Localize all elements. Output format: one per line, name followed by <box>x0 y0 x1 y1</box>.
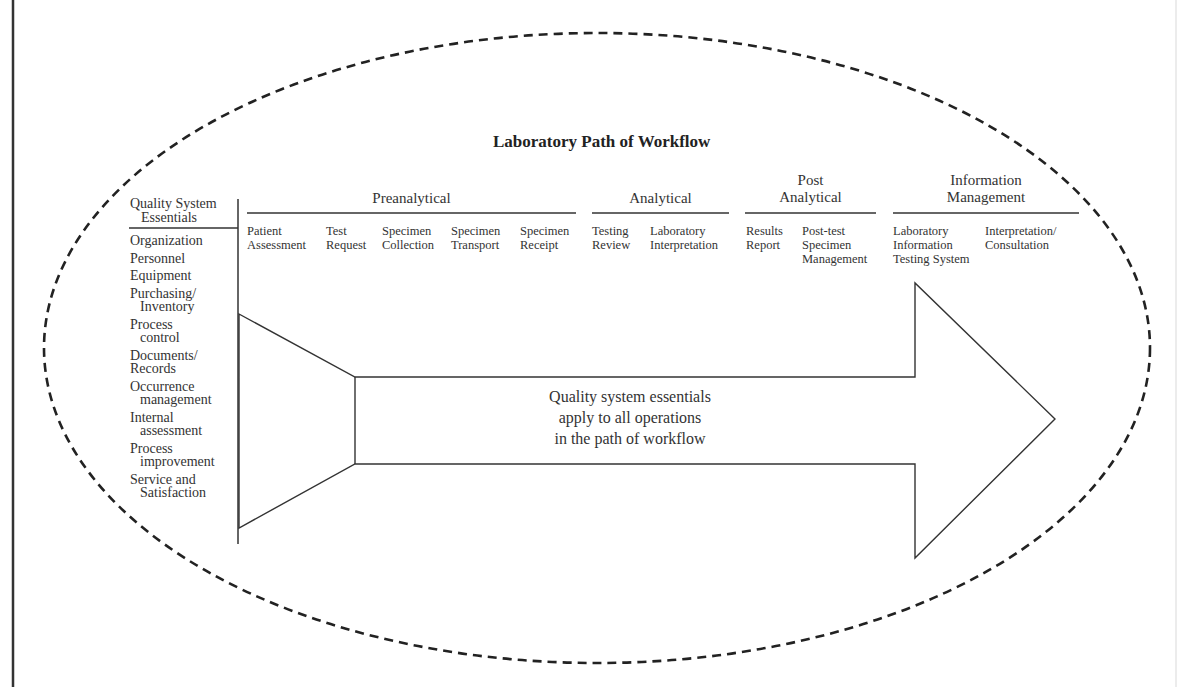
qse-item-label: Organization <box>130 233 203 248</box>
qse-item-label-cont: assessment <box>130 424 215 438</box>
qse-item-label-cont: improvement <box>130 455 215 469</box>
step-laboratory-information-testing-system: Laboratory Information Testing System <box>893 224 970 266</box>
step-post-test-specimen-management: Post-test Specimen Management <box>802 224 867 266</box>
qse-item-organization: Organization <box>130 234 215 248</box>
step-label: Post-test <box>802 224 867 238</box>
step-label: Review <box>592 238 630 252</box>
step-label: Interpretation/ <box>985 224 1057 238</box>
step-label: Testing System <box>893 252 970 266</box>
qse-item-occurrence-management: Occurrence management <box>130 380 215 407</box>
step-patient-assessment: Patient Assessment <box>247 224 306 252</box>
phase-heading-label-line2: Management <box>893 189 1079 206</box>
qse-header: Quality System Essentials <box>130 197 217 225</box>
phase-heading-postanalytical: Post Analytical <box>745 172 876 206</box>
step-label: Collection <box>382 238 434 252</box>
step-label: Results <box>746 224 783 238</box>
step-label: Request <box>326 238 366 252</box>
step-label: Transport <box>451 238 500 252</box>
step-label: Management <box>802 252 867 266</box>
phase-heading-information-management: Information Management <box>893 172 1079 206</box>
step-specimen-transport: Specimen Transport <box>451 224 500 252</box>
qse-item-label: Equipment <box>130 268 191 283</box>
qse-item-purchasing-inventory: Purchasing/ Inventory <box>130 287 215 314</box>
step-specimen-receipt: Specimen Receipt <box>520 224 569 252</box>
step-results-report: Results Report <box>746 224 783 252</box>
qse-item-equipment: Equipment <box>130 269 215 283</box>
phase-heading-label: Analytical <box>629 190 691 206</box>
qse-item-label-cont: management <box>130 393 215 407</box>
arrow-caption-line3: in the path of workflow <box>480 428 780 449</box>
step-label: Receipt <box>520 238 569 252</box>
step-label: Specimen <box>451 224 500 238</box>
step-laboratory-interpretation: Laboratory Interpretation <box>650 224 718 252</box>
step-testing-review: Testing Review <box>592 224 630 252</box>
step-label: Specimen <box>802 238 867 252</box>
step-specimen-collection: Specimen Collection <box>382 224 434 252</box>
arrow-caption-line2: apply to all operations <box>480 407 780 428</box>
qse-item-label: Personnel <box>130 251 185 266</box>
qse-item-label-cont: Records <box>130 362 215 376</box>
arrow-caption-line1: Quality system essentials <box>480 386 780 407</box>
step-label: Information <box>893 238 970 252</box>
step-label: Specimen <box>382 224 434 238</box>
qse-item-documents-records: Documents/ Records <box>130 349 215 376</box>
qse-item-internal-assessment: Internal assessment <box>130 411 215 438</box>
step-label: Laboratory <box>650 224 718 238</box>
qse-header-line1: Quality System <box>130 197 217 211</box>
step-label: Test <box>326 224 366 238</box>
qse-header-line2: Essentials <box>130 211 217 225</box>
phase-heading-analytical: Analytical <box>592 190 729 207</box>
phase-heading-label: Preanalytical <box>372 190 450 206</box>
phase-heading-label-line2: Analytical <box>745 189 876 206</box>
step-label: Testing <box>592 224 630 238</box>
qse-item-label-cont: Inventory <box>130 300 215 314</box>
qse-list: Organization Personnel Equipment Purchas… <box>130 234 215 500</box>
qse-item-process-improvement: Process improvement <box>130 442 215 469</box>
qse-item-label-cont: control <box>130 331 215 345</box>
qse-item-label-cont: Satisfaction <box>130 486 215 500</box>
arrow-caption: Quality system essentials apply to all o… <box>480 386 780 449</box>
qse-item-service-satisfaction: Service and Satisfaction <box>130 473 215 500</box>
step-label: Patient <box>247 224 306 238</box>
step-label: Specimen <box>520 224 569 238</box>
workflow-diagram: Laboratory Path of Workflow Quality Syst… <box>0 0 1179 687</box>
phase-heading-label-line1: Information <box>893 172 1079 189</box>
step-test-request: Test Request <box>326 224 366 252</box>
step-label: Interpretation <box>650 238 718 252</box>
qse-item-process-control: Process control <box>130 318 215 345</box>
step-label: Laboratory <box>893 224 970 238</box>
step-label: Report <box>746 238 783 252</box>
phase-heading-preanalytical: Preanalytical <box>247 190 576 207</box>
step-interpretation-consultation: Interpretation/ Consultation <box>985 224 1057 252</box>
diagram-title: Laboratory Path of Workflow <box>493 132 710 152</box>
step-label: Consultation <box>985 238 1057 252</box>
phase-heading-label-line1: Post <box>745 172 876 189</box>
step-label: Assessment <box>247 238 306 252</box>
qse-item-personnel: Personnel <box>130 252 215 266</box>
